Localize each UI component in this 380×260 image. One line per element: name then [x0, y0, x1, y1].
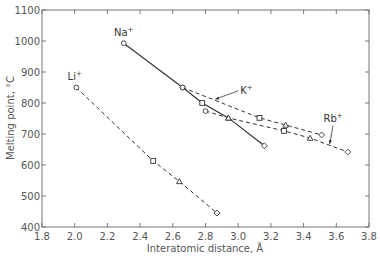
y-tick-label: 700: [21, 129, 40, 140]
arrowhead-icon: [215, 97, 219, 100]
y-tick-label: 600: [21, 160, 40, 171]
square-marker: [282, 129, 287, 134]
x-tick-label: 2.6: [165, 231, 181, 242]
chart-canvas: 1.82.02.22.42.62.83.03.23.43.63.84005006…: [0, 0, 380, 260]
x-tick-label: 3.6: [328, 231, 344, 242]
x-tick-label: 3.0: [230, 231, 246, 242]
series-annotation: Li+: [68, 70, 82, 82]
annotation-label: Rb+: [323, 112, 342, 124]
diamond-marker: [345, 149, 351, 155]
y-tick-label: 500: [21, 191, 40, 202]
x-tick-label: 2.4: [132, 231, 148, 242]
annotation-label: K+: [240, 84, 253, 96]
circle-marker: [121, 41, 126, 46]
annotation-label: Li+: [68, 70, 82, 82]
arrowhead-icon: [329, 140, 332, 144]
melting-point-chart: 1.82.02.22.42.62.83.03.23.43.63.84005006…: [0, 0, 380, 260]
circle-marker: [74, 85, 79, 90]
x-tick-label: 2.0: [67, 231, 83, 242]
x-tick-label: 1.8: [34, 231, 50, 242]
x-tick-label: 3.8: [361, 231, 377, 242]
y-tick-label: 800: [21, 98, 40, 109]
x-tick-label: 3.4: [296, 231, 312, 242]
annotation-label: Na+: [114, 26, 134, 38]
series-li: [74, 85, 220, 216]
circle-marker: [180, 85, 185, 90]
y-tick-label: 400: [21, 222, 40, 233]
series-k: [180, 85, 324, 138]
series-annotation: Na+: [114, 26, 134, 38]
x-axis-title: Interatomic distance, Å: [147, 242, 264, 254]
x-tick-label: 3.2: [263, 231, 279, 242]
series-layer: [74, 41, 351, 216]
series-annotation: K+: [215, 84, 252, 100]
square-marker: [151, 159, 156, 164]
series-line: [76, 88, 217, 214]
y-tick-label: 900: [21, 67, 40, 78]
y-axis-title: Melting point, °C: [5, 76, 16, 160]
y-tick-label: 1000: [15, 36, 40, 47]
diamond-marker: [319, 132, 325, 138]
annotations: Li+Na+K+Rb+: [68, 26, 343, 144]
square-marker: [200, 101, 205, 106]
x-tick-label: 2.2: [99, 231, 115, 242]
annotation-arrow: [215, 91, 238, 100]
y-tick-label: 1100: [15, 5, 40, 16]
series-annotation: Rb+: [323, 112, 342, 144]
circle-marker: [203, 109, 208, 114]
square-marker: [257, 115, 262, 120]
plot-frame: [42, 10, 369, 227]
x-tick-label: 2.8: [198, 231, 214, 242]
